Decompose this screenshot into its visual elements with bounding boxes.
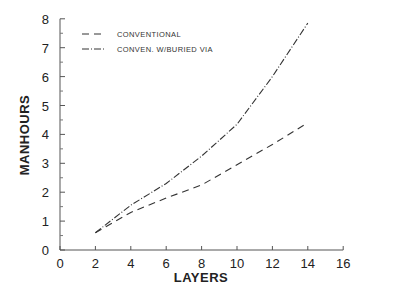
line-chart: 0246810121416012345678 CONVENTIONAL CONV… (0, 0, 408, 297)
series-lines (95, 23, 307, 233)
x-tick-label: 4 (127, 256, 134, 271)
x-tick-label: 6 (163, 256, 170, 271)
y-tick-label: 6 (42, 70, 49, 85)
y-tick-label: 3 (42, 156, 49, 171)
y-tick-label: 2 (42, 185, 49, 200)
y-tick-label: 4 (42, 127, 49, 142)
x-tick-label: 14 (301, 256, 315, 271)
x-tick-label: 2 (92, 256, 99, 271)
series-buried-via-line (95, 23, 307, 233)
x-tick-label: 12 (265, 256, 279, 271)
x-tick-label: 10 (230, 256, 244, 271)
y-tick-label: 7 (42, 41, 49, 56)
series-conventional-line (95, 123, 307, 233)
x-axis-title: LAYERS (174, 270, 229, 285)
x-tick-label: 0 (56, 256, 63, 271)
x-tick-label: 8 (198, 256, 205, 271)
legend-label-conventional: CONVENTIONAL (117, 30, 181, 39)
y-tick-label: 0 (42, 243, 49, 258)
legend-label-buried-via: CONVEN. W/BURIED VIA (117, 45, 213, 54)
y-axis-title: MANHOURS (17, 95, 32, 176)
y-tick-label: 5 (42, 99, 49, 114)
y-tick-label: 8 (42, 12, 49, 27)
legend: CONVENTIONAL CONVEN. W/BURIED VIA (82, 30, 213, 54)
x-tick-label: 16 (336, 256, 350, 271)
y-tick-label: 1 (42, 214, 49, 229)
